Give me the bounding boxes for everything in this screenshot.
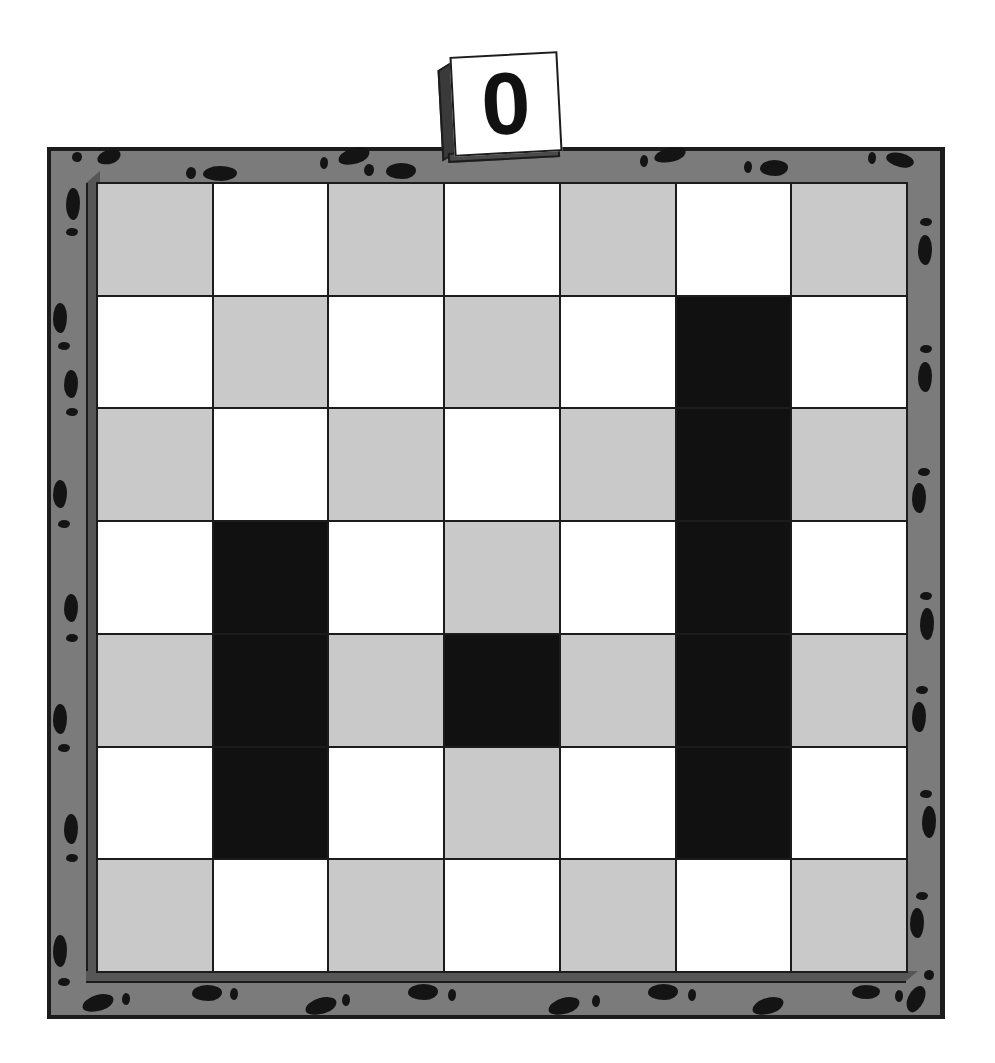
footprint-icon xyxy=(342,994,350,1006)
board-cell-gray[interactable] xyxy=(445,522,559,633)
footprint-icon xyxy=(192,985,222,1001)
game-board-grid[interactable] xyxy=(96,182,908,973)
board-cell-white[interactable] xyxy=(792,748,906,859)
footprint-icon xyxy=(920,790,932,798)
footprint-icon xyxy=(58,342,70,350)
footprint-icon xyxy=(760,160,788,176)
board-cell-gray[interactable] xyxy=(445,748,559,859)
board-cell-block[interactable] xyxy=(445,635,559,746)
board-cell-white[interactable] xyxy=(561,522,675,633)
footprint-icon xyxy=(320,157,328,169)
footprint-icon xyxy=(688,989,696,1001)
footprint-icon xyxy=(58,520,70,528)
board-cell-gray[interactable] xyxy=(98,184,212,295)
footprint-icon xyxy=(364,164,374,176)
footprint-icon xyxy=(66,228,78,236)
footprint-icon xyxy=(916,686,928,694)
board-cell-block[interactable] xyxy=(677,297,791,408)
score-value: 0 xyxy=(449,51,562,157)
board-cell-white[interactable] xyxy=(98,297,212,408)
board-cell-gray[interactable] xyxy=(98,635,212,746)
board-cell-block[interactable] xyxy=(677,522,791,633)
footprint-icon xyxy=(912,702,926,732)
board-cell-white[interactable] xyxy=(329,522,443,633)
footprint-icon xyxy=(744,161,752,173)
footprint-icon xyxy=(648,984,678,1000)
board-cell-white[interactable] xyxy=(329,297,443,408)
board-cell-white[interactable] xyxy=(329,748,443,859)
footprint-icon xyxy=(53,480,67,508)
footprint-icon xyxy=(640,155,648,167)
board-cell-white[interactable] xyxy=(561,748,675,859)
board-cell-gray[interactable] xyxy=(561,635,675,746)
board-cell-block[interactable] xyxy=(677,748,791,859)
board-cell-gray[interactable] xyxy=(561,409,675,520)
footprint-icon xyxy=(122,993,130,1005)
board-cell-gray[interactable] xyxy=(98,860,212,971)
footprint-icon xyxy=(72,152,82,162)
board-cell-block[interactable] xyxy=(677,635,791,746)
footprint-icon xyxy=(852,985,880,999)
board-cell-gray[interactable] xyxy=(561,860,675,971)
board-cell-block[interactable] xyxy=(214,748,328,859)
board-cell-gray[interactable] xyxy=(329,860,443,971)
footprint-icon xyxy=(920,608,934,640)
board-cell-gray[interactable] xyxy=(329,184,443,295)
board-cell-gray[interactable] xyxy=(329,635,443,746)
board-cell-block[interactable] xyxy=(214,522,328,633)
footprint-icon xyxy=(66,188,80,220)
footprint-icon xyxy=(920,218,932,226)
footprint-icon xyxy=(918,362,932,392)
board-cell-gray[interactable] xyxy=(792,635,906,746)
board-cell-white[interactable] xyxy=(677,184,791,295)
footprint-icon xyxy=(64,814,78,844)
board-cell-white[interactable] xyxy=(561,297,675,408)
board-cell-white[interactable] xyxy=(214,184,328,295)
footprint-icon xyxy=(408,984,438,1000)
footprint-icon xyxy=(910,908,924,938)
board-cell-gray[interactable] xyxy=(329,409,443,520)
board-cell-white[interactable] xyxy=(445,860,559,971)
footprint-icon xyxy=(868,152,876,164)
footprint-icon xyxy=(64,370,78,398)
footprint-icon xyxy=(203,166,237,181)
board-cell-gray[interactable] xyxy=(561,184,675,295)
footprint-icon xyxy=(53,303,67,333)
footprint-icon xyxy=(53,935,67,967)
board-cell-white[interactable] xyxy=(792,297,906,408)
footprint-icon xyxy=(66,408,78,416)
board-cell-white[interactable] xyxy=(792,522,906,633)
board-cell-gray[interactable] xyxy=(792,184,906,295)
footprint-icon xyxy=(386,163,416,179)
board-cell-gray[interactable] xyxy=(98,409,212,520)
board-cell-block[interactable] xyxy=(677,409,791,520)
board-cell-block[interactable] xyxy=(214,635,328,746)
footprint-icon xyxy=(186,167,196,179)
footprint-icon xyxy=(448,989,456,1001)
footprint-icon xyxy=(58,744,70,752)
board-cell-white[interactable] xyxy=(214,860,328,971)
footprint-icon xyxy=(64,594,78,622)
footprint-icon xyxy=(895,990,903,1002)
footprint-icon xyxy=(58,978,70,986)
board-cell-white[interactable] xyxy=(445,184,559,295)
board-cell-gray[interactable] xyxy=(445,297,559,408)
board-cell-white[interactable] xyxy=(214,409,328,520)
board-cell-white[interactable] xyxy=(677,860,791,971)
board-cell-white[interactable] xyxy=(98,522,212,633)
footprint-icon xyxy=(920,345,932,353)
board-cell-white[interactable] xyxy=(98,748,212,859)
board-cell-gray[interactable] xyxy=(792,409,906,520)
footprint-icon xyxy=(918,235,932,265)
board-cell-white[interactable] xyxy=(445,409,559,520)
board-cell-gray[interactable] xyxy=(792,860,906,971)
footprint-icon xyxy=(922,806,936,838)
footprint-icon xyxy=(920,592,932,600)
score-tile: 0 xyxy=(440,50,564,156)
footprint-icon xyxy=(918,468,930,476)
footprint-icon xyxy=(66,634,78,642)
footprint-icon xyxy=(912,483,926,513)
board-cell-gray[interactable] xyxy=(214,297,328,408)
footprint-icon xyxy=(230,988,238,1000)
footprint-icon xyxy=(592,995,600,1007)
